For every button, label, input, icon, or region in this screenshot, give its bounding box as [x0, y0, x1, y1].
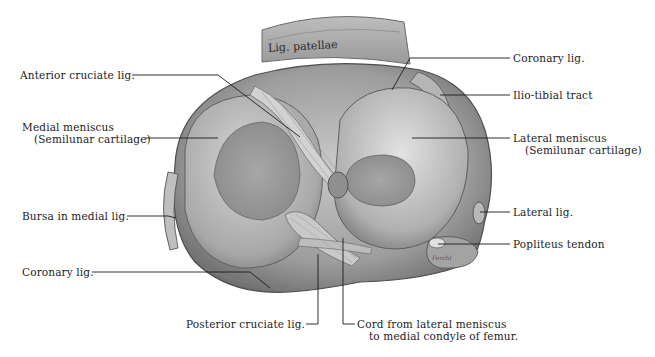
- label-line-1: Cord from lateral meniscus: [357, 318, 518, 330]
- label-text: Anterior cruciate lig.: [20, 69, 135, 81]
- label-text: Ilio-tibial tract: [513, 89, 593, 101]
- label-line-2: (Semilunar cartilage): [513, 144, 642, 156]
- label-line-2: (Semilunar cartilage): [22, 133, 151, 145]
- label-line-1: Lateral meniscus: [513, 132, 642, 144]
- label-text: Lateral lig.: [513, 206, 573, 218]
- label-lateral-meniscus: Lateral meniscus (Semilunar cartilage): [513, 132, 642, 156]
- ligament-stump: [328, 172, 348, 198]
- label-posterior-cruciate-lig: Posterior cruciate lig.: [186, 318, 305, 330]
- lateral-ligament: [473, 202, 485, 224]
- label-popliteus-tendon: Popliteus tendon: [513, 238, 605, 250]
- label-text: Posterior cruciate lig.: [186, 318, 305, 330]
- artist-signature: Ferchl: [431, 254, 451, 261]
- label-medial-meniscus: Medial meniscus (Semilunar cartilage): [22, 121, 151, 145]
- label-text: Coronary lig.: [22, 266, 94, 278]
- label-iliotibial-tract: Ilio-tibial tract: [513, 89, 593, 101]
- label-coronary-lig-medial: Coronary lig.: [22, 266, 94, 278]
- label-line-2: to medial condyle of femur.: [357, 330, 518, 342]
- label-anterior-cruciate-lig: Anterior cruciate lig.: [20, 69, 135, 81]
- label-bursa-medial-lig: Bursa in medial lig.: [22, 210, 129, 222]
- label-lateral-lig: Lateral lig.: [513, 206, 573, 218]
- lateral-condyle-surface: [345, 155, 415, 206]
- anatomy-figure: Lig. patellae Ferchl: [0, 0, 655, 357]
- label-meniscofemoral-cord: Cord from lateral meniscus to medial con…: [357, 318, 518, 342]
- label-text: Coronary lig.: [513, 52, 585, 64]
- label-text: Bursa in medial lig.: [22, 210, 129, 222]
- label-coronary-lig-lateral: Coronary lig.: [513, 52, 585, 64]
- label-text: Popliteus tendon: [513, 238, 605, 250]
- label-line-1: Medial meniscus: [22, 121, 151, 133]
